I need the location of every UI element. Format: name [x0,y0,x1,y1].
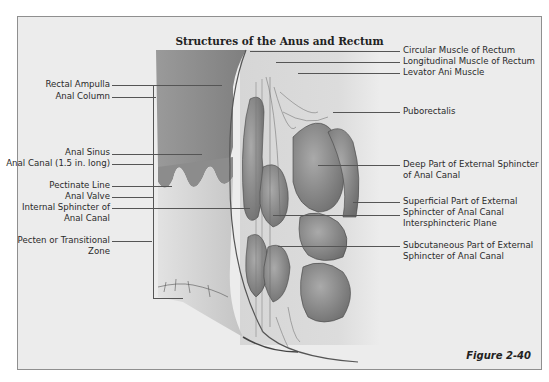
figure-frame: Structures of the Anus and Rectum [17,16,542,370]
leader-deep-part [318,165,400,166]
label-levator-ani: Levator Ani Muscle [403,67,484,78]
label-pecten-2: Zone [88,246,110,257]
label-anal-sinus: Anal Sinus [65,147,110,158]
leader-anal-valve [112,197,154,198]
leader-internal-sphincter [112,208,250,209]
label-superficial-part: Superficial Part of External [403,196,517,207]
leader-longitudinal-muscle [276,62,400,63]
leader-superficial-part [353,202,400,203]
leader-pectinate-line [112,186,172,187]
label-puborectalis: Puborectalis [403,106,455,117]
label-circular-muscle: Circular Muscle of Rectum [403,45,515,56]
label-anal-canal: Anal Canal (1.5 in. long) [6,158,110,169]
label-pectinate-line: Pectinate Line [49,180,110,191]
figure-caption: Figure 2-40 [466,350,531,361]
label-anal-column: Anal Column [55,91,110,102]
leader-anal-canal [112,164,153,165]
anal-canal-bracket [153,85,154,298]
leader-intersphincteric-plane [273,215,400,216]
label-rectal-ampulla: Rectal Ampulla [45,79,110,90]
leader-pecten [112,241,152,242]
label-internal-sphincter-2: Anal Canal [64,213,110,224]
label-anal-valve: Anal Valve [65,191,110,202]
label-intersphincteric-plane: Intersphincteric Plane [403,218,497,229]
label-longitudinal-muscle: Longitudinal Muscle of Rectum [403,56,535,67]
leader-anal-column [112,97,156,98]
label-pecten: Pecten or Transitional [18,235,110,246]
bracket-bottom [153,298,183,299]
label-deep-part-2: of Anal Canal [403,170,460,181]
label-internal-sphincter: Internal Sphincter of [22,202,110,213]
leader-subcutaneous-part [278,246,400,247]
label-subcutaneous-part-2: Sphincter of Anal Canal [403,251,504,262]
leader-levator-ani [298,73,400,74]
leader-anal-sinus [112,154,202,155]
label-superficial-part-2: Sphincter of Anal Canal [403,207,504,218]
leader-rectal-ampulla [112,85,222,86]
leader-circular-muscle [250,51,400,52]
label-subcutaneous-part: Subcutaneous Part of External [403,240,533,251]
label-deep-part: Deep Part of External Sphincter [403,159,539,170]
leader-puborectalis [333,112,400,113]
